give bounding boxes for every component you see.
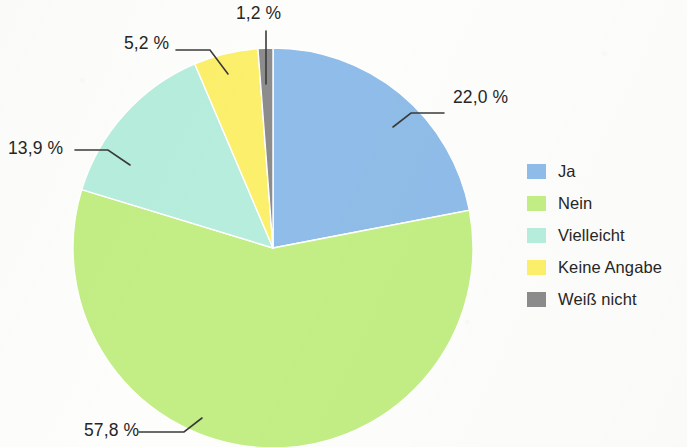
callout-label-vielleicht: 13,9 % (8, 138, 63, 159)
legend-swatch-nein (527, 196, 546, 211)
legend-swatch-keine-angabe (527, 260, 546, 275)
legend-item-keine-angabe[interactable]: Keine Angabe (527, 251, 687, 283)
legend-item-weiss-nicht[interactable]: Weiß nicht (527, 283, 687, 315)
legend-swatch-weiss-nicht (527, 292, 546, 307)
legend-label-nein: Nein (558, 194, 592, 213)
legend-item-ja[interactable]: Ja (527, 155, 687, 187)
legend-label-vielleicht: Vielleicht (558, 226, 625, 245)
callout-label-keine-angabe: 5,2 % (124, 33, 169, 54)
legend-label-weiss-nicht: Weiß nicht (558, 290, 637, 309)
legend-swatch-ja (527, 164, 546, 179)
pie-slices-group (73, 48, 473, 447)
legend-item-nein[interactable]: Nein (527, 187, 687, 219)
legend-item-vielleicht[interactable]: Vielleicht (527, 219, 687, 251)
legend-label-keine-angabe: Keine Angabe (558, 258, 662, 277)
callout-label-ja: 22,0 % (453, 87, 508, 108)
callout-label-weiss-nicht: 1,2 % (236, 3, 281, 24)
legend-label-ja: Ja (558, 162, 576, 181)
chart-canvas: 22,0 % 57,8 % 13,9 % 5,2 % 1,2 % Ja Nein… (0, 0, 687, 447)
legend-swatch-vielleicht (527, 228, 546, 243)
chart-legend: Ja Nein Vielleicht Keine Angabe Weiß nic… (527, 155, 687, 315)
callout-label-nein: 57,8 % (84, 420, 139, 441)
